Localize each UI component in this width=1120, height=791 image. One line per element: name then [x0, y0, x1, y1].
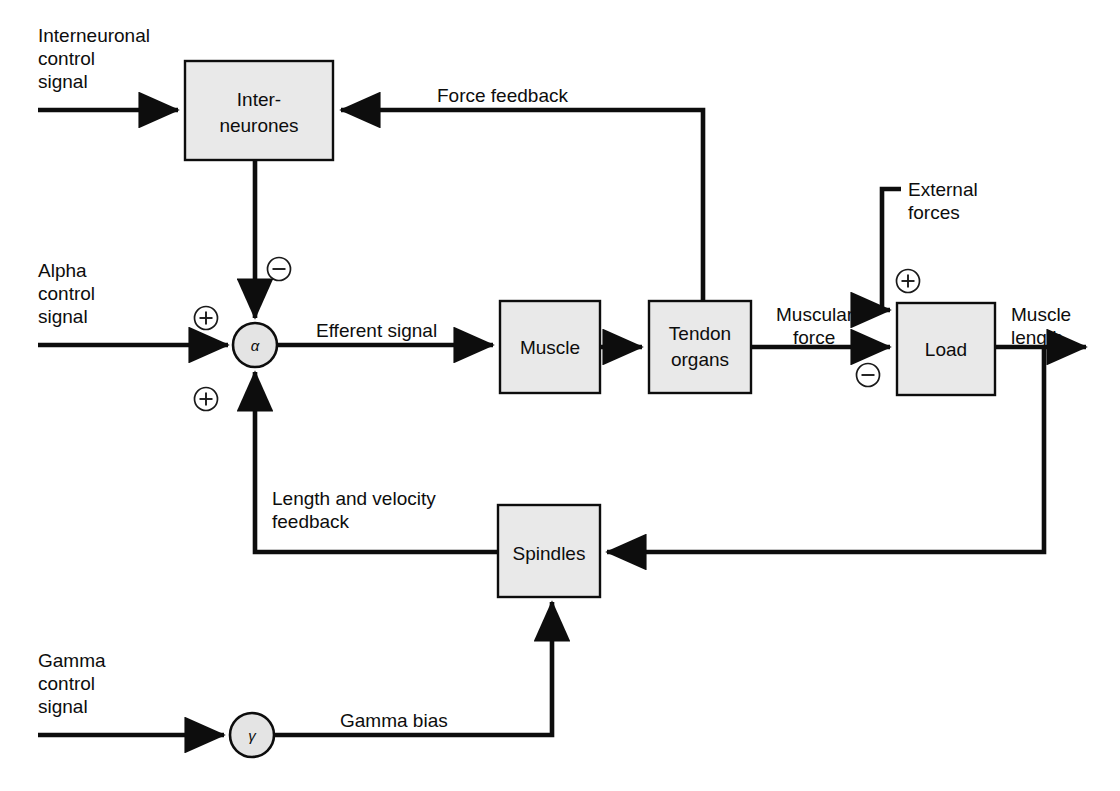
label-line-3: signal	[38, 71, 88, 92]
label-line-2: control	[38, 673, 95, 694]
label-line-1: External	[908, 179, 978, 200]
label-line-1: Efferent signal	[316, 320, 437, 341]
label-force-feedback: Force feedback	[437, 85, 568, 106]
label-muscular-force: Muscular force	[776, 304, 854, 348]
label-external-forces: External forces	[908, 179, 978, 223]
label-line-1: Gamma	[38, 650, 106, 671]
label-line-2: feedback	[272, 511, 350, 532]
block-diagram: Inter- neurones Muscle Tendon organs Loa…	[0, 0, 1120, 791]
label-line-3: signal	[38, 696, 88, 717]
sign-minus-interneurones-to-alpha	[268, 258, 291, 281]
wire-external-forces-to-load	[882, 189, 901, 310]
label-line-2: control	[38, 48, 95, 69]
block-load[interactable]: Load	[897, 303, 995, 395]
figure-canvas: Inter- neurones Muscle Tendon organs Loa…	[0, 0, 1120, 791]
block-interneurones-label-line1: Inter-	[237, 89, 281, 110]
block-interneurones[interactable]: Inter- neurones	[185, 61, 333, 160]
label-line-2: length	[1011, 327, 1063, 348]
node-gamma[interactable]: γ	[230, 713, 274, 757]
block-muscle[interactable]: Muscle	[500, 301, 600, 393]
sign-minus-muscular-force	[857, 364, 880, 387]
sign-plus-alpha-control	[195, 307, 218, 330]
label-line-1: Alpha	[38, 260, 87, 281]
label-line-1: Length and velocity	[272, 488, 436, 509]
wire-force-feedback	[341, 110, 703, 300]
label-line-1: Gamma bias	[340, 710, 448, 731]
label-interneuronal-control-signal: Interneuronal control signal	[38, 25, 150, 92]
label-alpha-control-signal: Alpha control signal	[38, 260, 95, 327]
label-line-1: Interneuronal	[38, 25, 150, 46]
block-interneurones-label-line2: neurones	[219, 115, 298, 136]
node-alpha-label: α	[251, 337, 260, 354]
label-efferent-signal: Efferent signal	[316, 320, 437, 341]
block-tendon-organs-label-line2: organs	[671, 349, 729, 370]
label-line-2: control	[38, 283, 95, 304]
block-muscle-label-line1: Muscle	[520, 337, 580, 358]
label-line-3: signal	[38, 306, 88, 327]
label-gamma-bias: Gamma bias	[340, 710, 448, 731]
block-load-label-line1: Load	[925, 339, 967, 360]
label-line-1: Muscular	[776, 304, 854, 325]
label-line-1: Force feedback	[437, 85, 568, 106]
block-spindles-label-line1: Spindles	[513, 543, 586, 564]
label-length-velocity-feedback: Length and velocity feedback	[272, 488, 436, 532]
node-alpha[interactable]: α	[233, 323, 277, 367]
label-line-1: Muscle	[1011, 304, 1071, 325]
label-line-2: forces	[908, 202, 960, 223]
block-tendon-organs-rect	[649, 301, 751, 393]
block-tendon-organs-label-line1: Tendon	[669, 323, 731, 344]
block-spindles[interactable]: Spindles	[498, 505, 600, 597]
label-line-2: force	[793, 327, 835, 348]
sign-plus-external-forces	[897, 270, 920, 293]
sign-plus-spindle-feedback	[195, 388, 218, 411]
label-muscle-length: Muscle length	[1011, 304, 1071, 348]
block-tendon-organs[interactable]: Tendon organs	[649, 301, 751, 393]
label-gamma-control-signal: Gamma control signal	[38, 650, 106, 717]
block-interneurones-rect	[185, 61, 333, 160]
